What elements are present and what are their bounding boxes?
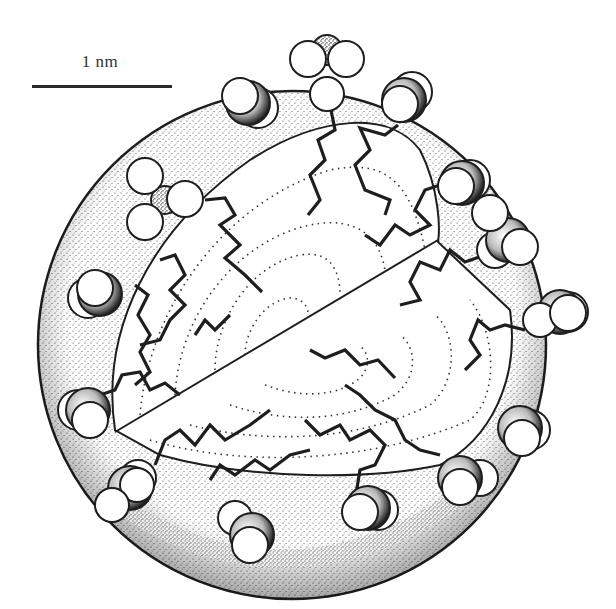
scale-bar	[32, 85, 172, 88]
head-group	[382, 72, 432, 122]
scale-bar-label: 1 nm	[0, 52, 200, 72]
micelle-illustration	[0, 0, 616, 609]
micelle-diagram: 1 nm	[0, 0, 616, 609]
